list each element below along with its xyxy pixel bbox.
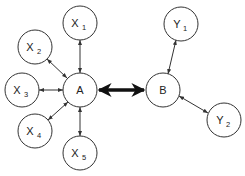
node-y2-subscript: 2: [226, 120, 230, 129]
node-y2-label: Y: [216, 114, 224, 126]
node-x3-label: X: [13, 84, 21, 96]
svg-text:5: 5: [82, 153, 86, 162]
edge-b-y2: [179, 96, 208, 113]
node-y2: Y 2: [207, 103, 241, 137]
node-x2-subscript: 2: [37, 47, 41, 56]
svg-text:3: 3: [24, 90, 28, 99]
svg-text:A: A: [76, 84, 84, 96]
node-x1-label: X: [71, 17, 79, 29]
node-y1-subscript: 1: [183, 24, 187, 33]
node-b: B: [146, 73, 180, 107]
node-x2-label: X: [26, 41, 34, 53]
edge-b-y1: [168, 40, 176, 74]
svg-text:1: 1: [183, 24, 187, 33]
node-b-label: B: [159, 84, 166, 96]
svg-text:X: X: [71, 17, 79, 29]
node-x5-label: X: [71, 147, 79, 159]
svg-text:X: X: [13, 84, 21, 96]
svg-text:2: 2: [226, 120, 230, 129]
svg-text:Y: Y: [216, 114, 224, 126]
node-x3-subscript: 3: [24, 90, 28, 99]
svg-text:4: 4: [37, 131, 41, 140]
svg-text:Y: Y: [173, 18, 181, 30]
edge-a-x4: [48, 102, 68, 120]
svg-text:1: 1: [82, 23, 86, 32]
node-x2: X 2: [18, 30, 52, 64]
node-x5: X 5: [63, 136, 97, 170]
edge-a-x2: [47, 59, 67, 78]
svg-text:2: 2: [37, 47, 41, 56]
node-x3: X 3: [5, 73, 39, 107]
node-a-label: A: [76, 84, 84, 96]
svg-text:B: B: [159, 84, 166, 96]
node-x4: X 4: [18, 114, 52, 148]
svg-text:X: X: [71, 147, 79, 159]
node-y1-label: Y: [173, 18, 181, 30]
node-a: A: [63, 73, 97, 107]
node-x5-subscript: 5: [82, 153, 86, 162]
node-x4-label: X: [26, 125, 34, 137]
node-y1: Y 1: [164, 7, 198, 41]
network-diagram: X 1 X 2 X 3 X 4 X 5 A B Y 1 Y 2: [0, 0, 245, 176]
svg-text:X: X: [26, 125, 34, 137]
node-x1-subscript: 1: [82, 23, 86, 32]
svg-text:X: X: [26, 41, 34, 53]
node-x1: X 1: [63, 6, 97, 40]
node-x4-subscript: 4: [37, 131, 41, 140]
